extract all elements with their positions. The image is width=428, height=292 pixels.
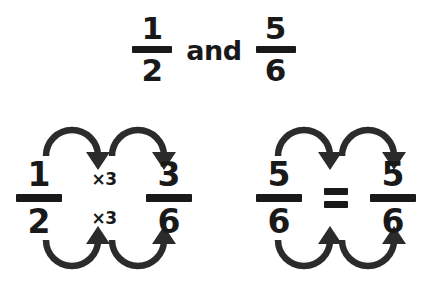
title-left-fraction: 1 2: [132, 13, 172, 86]
diagram-half-to-three-sixths: 1 2 ×3 ×3 3 6: [16, 112, 192, 284]
diagram-right-source-denominator: 6: [268, 205, 291, 238]
diagram-right-equals-sign: [324, 188, 348, 208]
diagram-left-source-fraction-bar: [16, 194, 62, 202]
numerator-arrow-1-path: [278, 130, 330, 156]
diagram-left-denominator-operation: ×3: [91, 208, 116, 228]
denominator-arrow-2-path: [342, 240, 394, 266]
title-left-numerator: 1: [142, 13, 164, 44]
diagram-left-source-numerator: 1: [28, 158, 51, 191]
title-right-fraction: 5 6: [256, 13, 296, 86]
fraction-equivalence-illustration: 1 2 and 5 6: [0, 0, 428, 292]
numerator-arrow-1-path: [46, 130, 98, 156]
diagram-left-result-fraction: 3 6: [146, 158, 192, 238]
diagram-left-source-fraction: 1 2: [16, 158, 62, 238]
title-conjunction: and: [186, 35, 241, 66]
diagram-right-fractions-row: 5 6 5 6: [256, 156, 416, 240]
equals-bar-top: [324, 188, 348, 195]
diagram-left-operations: ×3 ×3: [91, 169, 116, 228]
diagram-right-source-numerator: 5: [268, 158, 291, 191]
diagram-right-source-fraction-bar: [256, 194, 302, 202]
diagram-right-result-numerator: 5: [382, 158, 405, 191]
diagram-left-result-numerator: 3: [158, 158, 181, 191]
title-right-denominator: 6: [265, 55, 287, 86]
diagram-left-fractions-row: 1 2 ×3 ×3 3 6: [16, 156, 192, 240]
diagram-left-numerator-operation: ×3: [91, 169, 116, 189]
diagram-right-result-fraction-bar: [370, 194, 416, 202]
diagram-right-result-denominator: 6: [382, 205, 405, 238]
diagram-left-result-denominator: 6: [158, 205, 181, 238]
diagram-right-result-fraction: 5 6: [370, 158, 416, 238]
denominator-arrow-1-path: [46, 240, 98, 266]
numerator-arrow-2-path: [342, 130, 394, 156]
diagram-five-sixths-equality: 5 6 5 6: [256, 112, 416, 284]
diagram-right-source-fraction: 5 6: [256, 158, 302, 238]
denominator-arrow-2-path: [112, 240, 164, 266]
equals-bar-bottom: [324, 201, 348, 208]
title-right-numerator: 5: [265, 13, 287, 44]
title-left-denominator: 2: [142, 55, 164, 86]
numerator-arrow-2-path: [112, 130, 164, 156]
denominator-arrow-1-path: [278, 240, 330, 266]
title-row: 1 2 and 5 6: [0, 10, 428, 88]
diagram-left-result-fraction-bar: [146, 194, 192, 202]
diagram-left-source-denominator: 2: [28, 205, 51, 238]
